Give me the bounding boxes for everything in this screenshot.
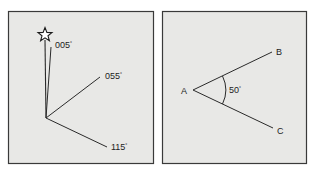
bearing-055-label: 055° [105, 71, 122, 81]
vertex-label-a: A [181, 86, 187, 96]
right-panel-angle: A B C 50° [163, 12, 307, 164]
bearing-115-label: 115° [111, 142, 127, 152]
left-panel-frame [9, 12, 154, 164]
point-label-b: B [276, 47, 282, 57]
point-label-c: C [277, 126, 284, 136]
bearing-005-label: 005° [55, 40, 72, 50]
bearing-diagrams: 005° 055° 115° A B C 50° [0, 0, 311, 172]
left-panel-bearings: 005° 055° 115° [9, 12, 154, 164]
